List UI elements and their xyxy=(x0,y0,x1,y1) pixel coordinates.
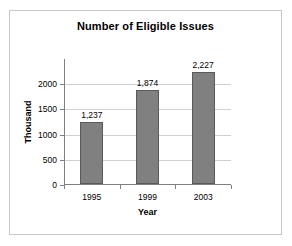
y-axis-line xyxy=(64,59,65,185)
bar xyxy=(80,122,103,184)
bar-value-label: 1,874 xyxy=(137,78,158,88)
y-axis-title-label: Thousand xyxy=(22,59,34,185)
x-axis-tick xyxy=(231,185,232,189)
y-axis-tick-label: 1500 xyxy=(38,104,57,114)
chart-frame: Number of Eligible Issues Thousand Year … xyxy=(9,10,282,235)
bar xyxy=(136,90,159,184)
x-axis-tick xyxy=(175,185,176,189)
plot-area: 1,2371,8742,227 0500100015002000 1995199… xyxy=(64,59,231,185)
x-axis-title: Year xyxy=(64,207,231,217)
x-axis-tick xyxy=(120,185,121,189)
y-axis-tick-label: 0 xyxy=(52,180,57,190)
chart-title: Number of Eligible Issues xyxy=(10,20,281,32)
y-axis-tick-label: 1000 xyxy=(38,130,57,140)
y-axis-title: Thousand xyxy=(22,59,34,185)
x-axis-line xyxy=(64,184,231,185)
y-axis-tick-label: 500 xyxy=(43,155,57,165)
x-axis-tick-label: 1999 xyxy=(138,192,157,202)
x-axis-tick-label: 2003 xyxy=(194,192,213,202)
bar-value-label: 1,237 xyxy=(81,110,102,120)
bar-value-label: 2,227 xyxy=(193,60,214,70)
y-axis-tick-label: 2000 xyxy=(38,79,57,89)
bar xyxy=(192,72,215,184)
x-axis-tick xyxy=(64,185,65,189)
x-axis-tick-label: 1995 xyxy=(82,192,101,202)
